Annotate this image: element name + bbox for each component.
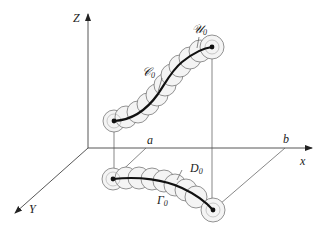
b-to-curve-end-line bbox=[213, 148, 285, 210]
y-axis-label: Y bbox=[29, 202, 37, 216]
x-axis-label: x bbox=[299, 154, 306, 168]
u0-label: 𝒰0 bbox=[192, 22, 207, 37]
lower-curve-start-point bbox=[111, 177, 116, 182]
point-a-label: a bbox=[147, 133, 153, 147]
point-b-label: b bbox=[283, 132, 289, 146]
z-axis-label: Z bbox=[73, 11, 80, 25]
d0-label: D0 bbox=[189, 161, 203, 176]
lower-curve-end-point bbox=[211, 208, 216, 213]
gamma0-label: Γ0 bbox=[156, 193, 168, 208]
c0-label: 𝒞0 bbox=[142, 65, 155, 80]
tube-neighborhood-diagram: Z x Y a b 𝒞0 𝒰0 D0 Γ0 bbox=[0, 0, 321, 234]
y-axis bbox=[15, 148, 88, 213]
upper-curve-start-point bbox=[112, 119, 117, 124]
upper-curve-end-point bbox=[210, 45, 215, 50]
